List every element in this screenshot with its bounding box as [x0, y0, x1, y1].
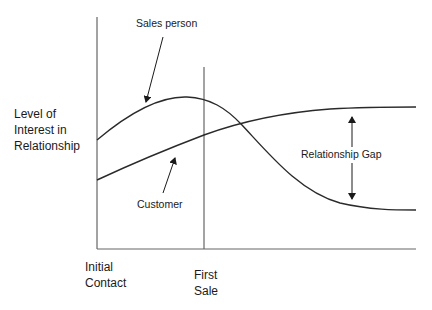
x-label-initial-contact: Initial Contact	[85, 259, 126, 291]
customer-label: Customer	[137, 198, 183, 211]
sales-person-label: Sales person	[136, 17, 197, 30]
y-axis-label-line-1: Level of	[14, 106, 80, 122]
relationship-gap-label: Relationship Gap	[301, 148, 382, 161]
customer-curve	[97, 107, 416, 180]
x-label-initial-line-2: Contact	[85, 275, 126, 291]
y-axis-label: Level of Interest in Relationship	[14, 106, 80, 154]
sales-person-arrow	[146, 37, 163, 102]
x-label-first-sale: First Sale	[194, 267, 218, 299]
y-axis-label-line-3: Relationship	[14, 138, 80, 154]
x-label-initial-line-1: Initial	[85, 259, 126, 275]
y-axis-label-line-2: Interest in	[14, 122, 80, 138]
customer-arrow	[163, 158, 175, 193]
x-label-first-sale-line-2: Sale	[194, 283, 218, 299]
x-label-first-sale-line-1: First	[194, 267, 218, 283]
